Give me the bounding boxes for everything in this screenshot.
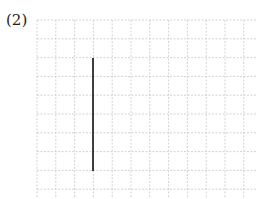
grid-paper: [0, 0, 256, 199]
grid-lines: [37, 20, 256, 199]
